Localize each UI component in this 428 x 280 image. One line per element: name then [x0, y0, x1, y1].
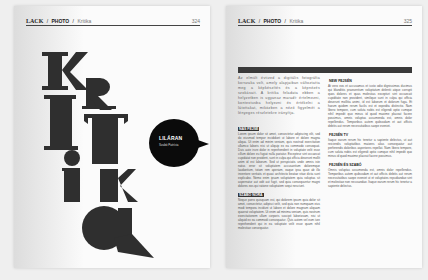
section-body: Lorem ipsum dolor sit amet, consectetur … [238, 132, 320, 188]
article-column-left: Az elmúlt évtized a digitális fotográfia… [238, 76, 320, 232]
running-header: LACK / PHOTO / Kritika 325 [238, 16, 412, 26]
letter-a [82, 206, 154, 258]
section-heading: NAS FEJSÉ [238, 127, 259, 131]
title-bar [238, 67, 412, 73]
section-heading: FEJSÉN TV [328, 133, 349, 137]
section-heading: SZABÓ NÓRA [238, 193, 264, 197]
letter-i-2 [62, 168, 80, 202]
breadcrumb-separator: / [285, 18, 286, 24]
section-heading: NEW FEJSÉN [328, 79, 353, 83]
article-column-right: NEW FEJSÉN At vero eos et accusamus et i… [328, 76, 412, 190]
section-heading: FEJSÉN ÉS SZABÓ [328, 163, 362, 167]
letter-k-1 [42, 52, 88, 90]
section-body: Neque porro quisquam est, qui dolorem ip… [238, 198, 320, 230]
section-body: Itaque earum rerum hic tenetur a sapient… [328, 138, 412, 158]
breadcrumb: LACK / PHOTO / Kritika [238, 18, 305, 24]
breadcrumb-separator: / [259, 18, 260, 24]
magazine-brand: LACK [238, 18, 255, 24]
page-number: 325 [404, 18, 412, 24]
section-body: At vero eos et accusamus et iusto odio d… [328, 84, 412, 128]
letter-r [82, 78, 116, 110]
right-page: LACK / PHOTO / Kritika 325 Az elmúlt évt… [226, 6, 422, 268]
subsection-label: Kritika [289, 18, 303, 24]
article-intro: Az elmúlt évtized a digitális fotográfia… [238, 76, 320, 116]
letter-i-1 [44, 95, 78, 150]
badge-title: LILÁRAN [159, 135, 182, 141]
letter-i-dot [64, 150, 80, 166]
section-body: Omnis voluptas assumenda est, omnis dolo… [328, 168, 412, 188]
badge-author: Szabó Patrícia [159, 143, 179, 147]
letter-k-2 [100, 169, 138, 202]
section-label: PHOTO [264, 18, 282, 24]
left-page: LACK / PHOTO / Kritika 324 [14, 6, 210, 268]
letter-t [84, 114, 128, 164]
speech-bubble-badge: LILÁRAN Szabó Patrícia [149, 119, 199, 167]
speech-bubble-tail [195, 139, 209, 149]
